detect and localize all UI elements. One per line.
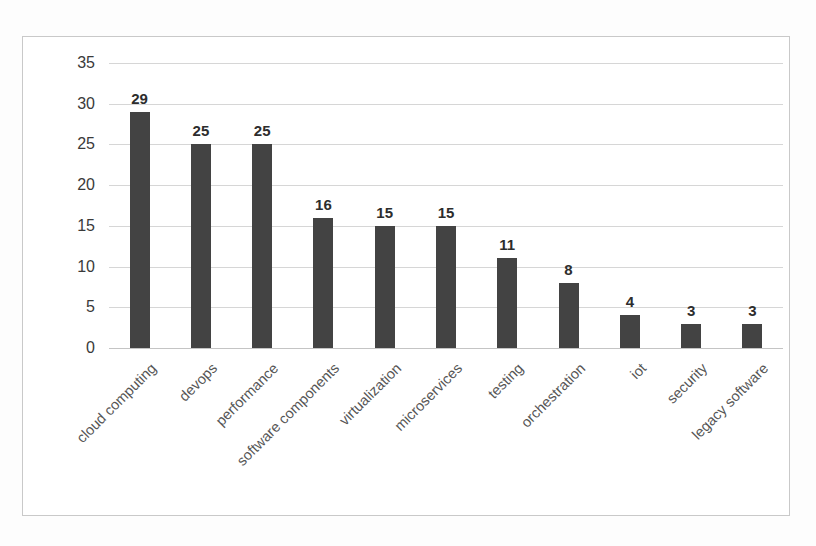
bar[interactable] bbox=[497, 258, 517, 348]
bar-value-label: 25 bbox=[254, 122, 271, 139]
y-tick-label: 20 bbox=[77, 176, 95, 194]
plot-area: 05101520253035 292525161515118433 cloud … bbox=[109, 63, 783, 348]
y-tick-label: 10 bbox=[77, 258, 95, 276]
bar[interactable] bbox=[130, 112, 150, 348]
bar-slot: 15 bbox=[415, 63, 476, 348]
x-axis-label: devops bbox=[176, 360, 220, 404]
x-axis-label: iot bbox=[627, 360, 649, 382]
bar-value-label: 3 bbox=[748, 302, 756, 319]
bar-value-label: 4 bbox=[626, 293, 634, 310]
chart-frame: 05101520253035 292525161515118433 cloud … bbox=[22, 36, 790, 516]
bars-layer: 292525161515118433 bbox=[109, 63, 783, 348]
bar[interactable] bbox=[742, 324, 762, 348]
bar[interactable] bbox=[191, 144, 211, 348]
x-axis-labels: cloud computingdevopsperformancesoftware… bbox=[109, 348, 783, 518]
x-axis-label: virtualization bbox=[336, 360, 404, 428]
y-tick-label: 25 bbox=[77, 135, 95, 153]
bar-value-label: 25 bbox=[193, 122, 210, 139]
x-axis-label: testing bbox=[485, 360, 527, 402]
bar-slot: 29 bbox=[109, 63, 170, 348]
bar-slot: 8 bbox=[538, 63, 599, 348]
bar-slot: 25 bbox=[232, 63, 293, 348]
bar-value-label: 29 bbox=[131, 90, 148, 107]
bar[interactable] bbox=[436, 226, 456, 348]
y-tick-label: 30 bbox=[77, 95, 95, 113]
y-tick-label: 15 bbox=[77, 217, 95, 235]
bar-slot: 3 bbox=[660, 63, 721, 348]
bar[interactable] bbox=[559, 283, 579, 348]
bar-slot: 25 bbox=[170, 63, 231, 348]
bar-value-label: 15 bbox=[438, 204, 455, 221]
bar[interactable] bbox=[252, 144, 272, 348]
bar[interactable] bbox=[620, 315, 640, 348]
y-tick-label: 5 bbox=[86, 298, 95, 316]
bar[interactable] bbox=[681, 324, 701, 348]
bar-value-label: 8 bbox=[564, 261, 572, 278]
x-axis-label: orchestration bbox=[517, 360, 588, 431]
bar[interactable] bbox=[375, 226, 395, 348]
bar-slot: 3 bbox=[722, 63, 783, 348]
bar-slot: 11 bbox=[477, 63, 538, 348]
scanned-page: 05101520253035 292525161515118433 cloud … bbox=[0, 0, 816, 546]
bar-value-label: 16 bbox=[315, 196, 332, 213]
y-tick-label: 35 bbox=[77, 54, 95, 72]
bar-slot: 15 bbox=[354, 63, 415, 348]
bar-value-label: 11 bbox=[499, 236, 515, 253]
bar-value-label: 3 bbox=[687, 302, 695, 319]
x-axis-label: software components bbox=[234, 360, 343, 469]
bar-slot: 4 bbox=[599, 63, 660, 348]
bar-value-label: 15 bbox=[376, 204, 393, 221]
bar[interactable] bbox=[313, 218, 333, 348]
x-axis-label: security bbox=[664, 360, 711, 407]
x-axis-label: cloud computing bbox=[73, 360, 159, 446]
bar-slot: 16 bbox=[293, 63, 354, 348]
y-tick-label: 0 bbox=[86, 339, 95, 357]
